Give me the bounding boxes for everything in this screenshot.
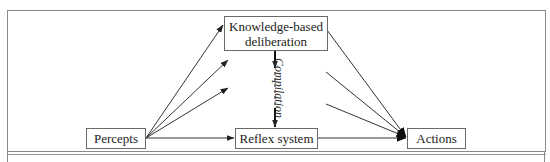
knowledge-deliberation-box: Knowledge-based deliberation bbox=[224, 16, 328, 51]
knowledge-label-line2: deliberation bbox=[245, 34, 307, 49]
edge-percepts-free-1 bbox=[146, 60, 228, 138]
actions-label: Actions bbox=[416, 131, 456, 146]
compilation-label: Compilation bbox=[271, 58, 286, 118]
edge-percepts-knowledge bbox=[146, 25, 223, 138]
edge-percepts-free-2 bbox=[146, 88, 228, 138]
actions-box: Actions bbox=[407, 128, 466, 149]
reflex-label: Reflex system bbox=[239, 131, 313, 146]
percepts-label: Percepts bbox=[94, 131, 138, 146]
edge-free-actions-1 bbox=[326, 72, 406, 137]
reflex-system-box: Reflex system bbox=[235, 128, 318, 149]
percepts-box: Percepts bbox=[86, 128, 146, 149]
knowledge-label-line1: Knowledge-based bbox=[229, 19, 323, 34]
